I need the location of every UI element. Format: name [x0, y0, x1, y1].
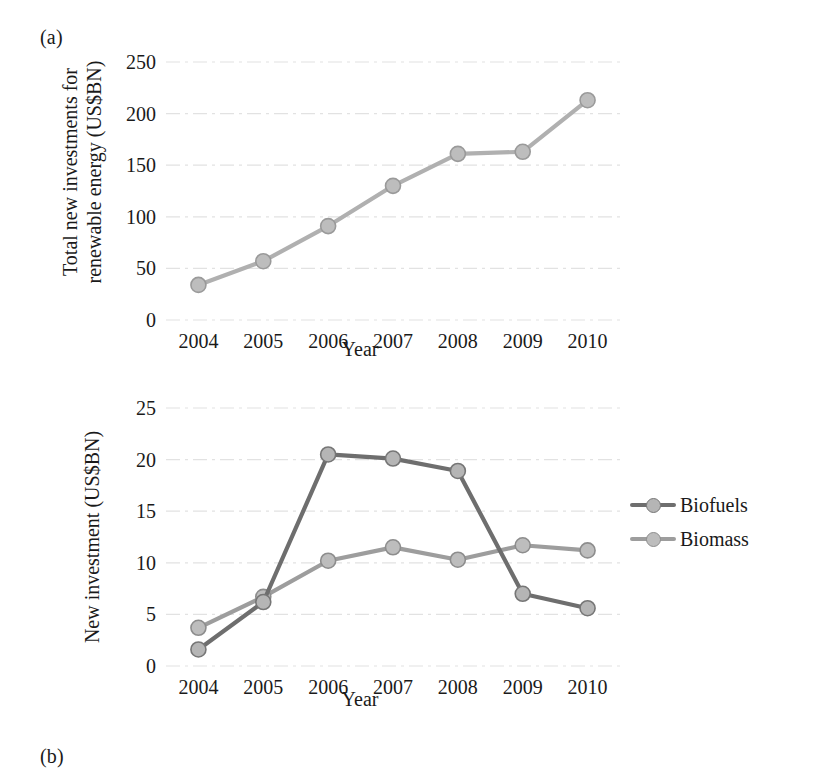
legend-swatch-biomass	[630, 532, 676, 546]
panel-a-x-axis-title: Year	[260, 338, 460, 361]
y-tick-label: 25	[136, 398, 156, 419]
legend-label-biomass: Biomass	[680, 528, 749, 551]
panel-a-label: (a)	[40, 26, 63, 49]
data-point-marker	[321, 553, 336, 568]
panel-b-plot: 05101520252004200520062007200820092010	[108, 398, 628, 708]
x-tick-label: 2010	[568, 676, 608, 698]
data-point-marker	[386, 540, 401, 555]
panel-a-y-axis-title-line1: Total new investments for	[58, 48, 82, 296]
data-point-marker	[580, 93, 595, 108]
panel-b-x-axis-title: Year	[260, 688, 460, 711]
y-tick-label: 15	[136, 500, 156, 522]
y-tick-label: 100	[126, 206, 156, 228]
data-point-marker	[321, 447, 336, 462]
x-tick-label: 2009	[503, 676, 543, 698]
x-tick-label: 2004	[178, 330, 218, 352]
panel-a-y-axis-title-line2: renewable energy (US$BN)	[82, 48, 106, 296]
panel-b: (b) New investment (US$BN) 0510152025200…	[0, 370, 828, 753]
y-tick-label: 5	[146, 603, 156, 625]
y-tick-label: 10	[136, 552, 156, 574]
legend-item-biomass[interactable]: Biomass	[630, 522, 749, 556]
data-point-marker	[515, 538, 530, 553]
legend-item-biofuels[interactable]: Biofuels	[630, 488, 749, 522]
data-point-marker	[256, 595, 271, 610]
data-point-marker	[321, 219, 336, 234]
data-point-marker	[515, 144, 530, 159]
legend-label-biofuels: Biofuels	[680, 494, 748, 517]
x-tick-label: 2010	[568, 330, 608, 352]
data-point-marker	[580, 601, 595, 616]
data-point-marker	[450, 552, 465, 567]
panel-b-label: (b)	[40, 745, 64, 768]
x-tick-label: 2004	[178, 676, 218, 698]
data-point-marker	[191, 620, 206, 635]
y-tick-label: 150	[126, 154, 156, 176]
y-tick-label: 0	[146, 655, 156, 677]
panel-a: (a) Total new investments for renewable …	[0, 0, 828, 370]
data-point-marker	[386, 451, 401, 466]
panel-b-y-axis-title: New investment (US$BN)	[80, 412, 104, 662]
data-point-marker	[450, 463, 465, 478]
panel-a-plot: 0501001502002502004200520062007200820092…	[108, 30, 628, 360]
y-tick-label: 0	[146, 309, 156, 331]
data-point-marker	[580, 543, 595, 558]
y-tick-label: 50	[136, 257, 156, 279]
panel-b-legend: Biofuels Biomass	[630, 488, 749, 556]
data-point-marker	[450, 146, 465, 161]
x-tick-label: 2009	[503, 330, 543, 352]
data-point-marker	[191, 277, 206, 292]
data-point-marker	[256, 254, 271, 269]
y-tick-label: 250	[126, 51, 156, 73]
legend-swatch-biofuels	[630, 498, 676, 512]
data-point-marker	[386, 178, 401, 193]
data-point-marker	[191, 642, 206, 657]
data-point-marker	[515, 586, 530, 601]
y-tick-label: 200	[126, 103, 156, 125]
y-tick-label: 20	[136, 449, 156, 471]
panel-a-y-axis-title: Total new investments for renewable ener…	[58, 48, 106, 296]
